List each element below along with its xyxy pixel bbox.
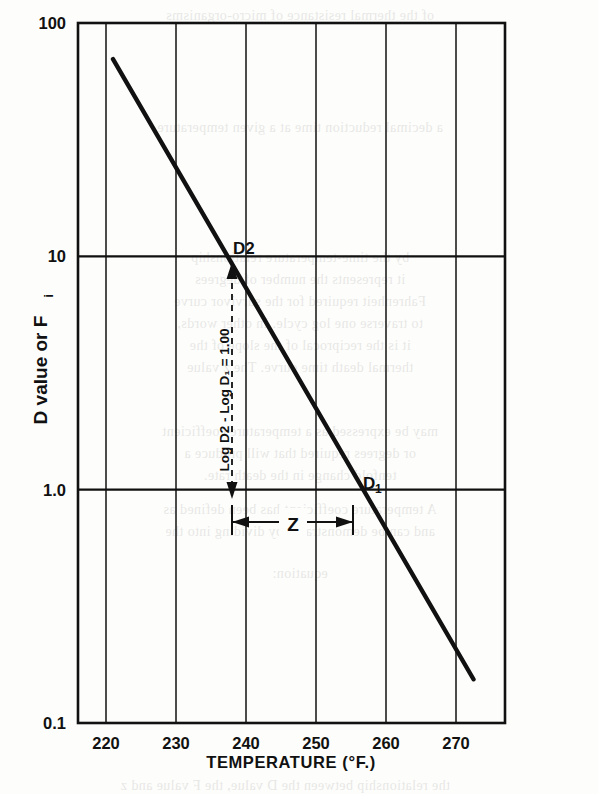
vertical-gridlines — [106, 23, 456, 723]
y-tick-label-100: 100 — [38, 14, 66, 32]
death-time-curve — [113, 59, 474, 679]
horizontal-gridlines — [78, 256, 505, 489]
arrowhead-right — [336, 517, 353, 528]
x-tick-label-250: 250 — [302, 734, 330, 752]
point-label-d2: D2 — [233, 239, 255, 258]
point-label-d1-main: D — [363, 474, 375, 493]
z-label: Z — [287, 514, 299, 535]
point-label-d1: D 1 — [363, 474, 382, 496]
y-tick-label-1.0: 1.0 — [43, 481, 66, 499]
x-axis-tick-labels: 220230240250260270 — [92, 734, 470, 752]
log-difference-label: Log D2 - Log D₁ = 1.00 — [217, 328, 232, 471]
y-tick-label-10: 10 — [48, 247, 66, 265]
point-label-d1-sub: 1 — [375, 482, 382, 496]
y-tick-label-0.1: 0.1 — [43, 714, 66, 732]
x-tick-label-240: 240 — [232, 734, 260, 752]
x-tick-label-270: 270 — [442, 734, 470, 752]
y-axis-title-subscript: i — [41, 294, 56, 298]
x-tick-label-230: 230 — [162, 734, 190, 752]
plot-frame — [78, 23, 505, 723]
y-axis-title-main: D value or F — [30, 316, 51, 425]
x-tick-label-260: 260 — [372, 734, 400, 752]
arrowhead-left — [232, 517, 249, 528]
x-axis-title: TEMPERATURE (°F.) — [206, 753, 376, 771]
x-tick-label-220: 220 — [92, 734, 120, 752]
y-axis-title: D value or F i — [30, 294, 56, 424]
